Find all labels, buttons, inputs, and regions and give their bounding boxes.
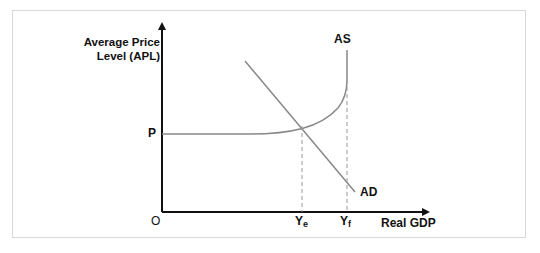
y-axis-label-line2: Level (APL) [84,49,160,63]
y-axis-label-line1: Average Price [84,35,160,49]
ad-curve [245,61,355,192]
ye-sub: e [303,219,308,229]
ye-main: Y [295,214,303,228]
yf-label: Yf [340,214,351,228]
yf-sub: f [348,219,351,229]
ad-as-diagram [0,0,540,253]
yf-main: Y [340,214,348,228]
x-axis-label: Real GDP [381,216,436,230]
ye-label: Ye [295,214,308,228]
as-curve [162,50,347,134]
origin-label: O [151,214,160,228]
ad-label: AD [360,185,377,199]
as-label: AS [334,32,351,46]
price-label: P [148,126,156,140]
y-axis-label: Average Price Level (APL) [84,35,160,63]
